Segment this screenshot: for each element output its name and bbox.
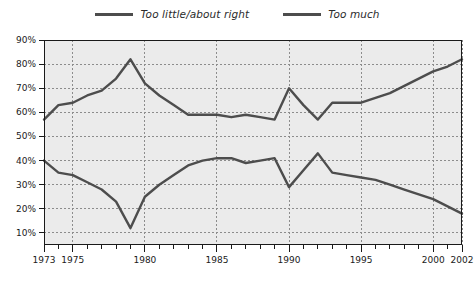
y-axis-label: 80%: [0, 59, 36, 69]
y-axis-label: 20%: [0, 204, 36, 214]
plot-svg: [0, 0, 475, 282]
plot-area: 10%20%30%40%50%60%70%80%90%1973197519801…: [0, 0, 475, 282]
y-axis-label: 50%: [0, 131, 36, 141]
y-axis-label: 30%: [0, 180, 36, 190]
x-axis-label: 1990: [278, 255, 301, 265]
x-axis-label: 1985: [206, 255, 229, 265]
x-axis-label: 1995: [350, 255, 373, 265]
y-axis-label: 40%: [0, 156, 36, 166]
x-axis-label: 1975: [61, 255, 84, 265]
y-axis-label: 70%: [0, 83, 36, 93]
x-axis-ticks: [44, 245, 462, 252]
x-axis-label: 2000: [422, 255, 445, 265]
y-axis-ticks: [39, 40, 44, 233]
y-axis-label: 90%: [0, 35, 36, 45]
survey-trend-line-chart: Too little/about right Too much 10%20%30…: [0, 0, 475, 282]
y-axis-label: 10%: [0, 228, 36, 238]
plot-background: [44, 40, 462, 245]
y-axis-label: 60%: [0, 107, 36, 117]
x-axis-label: 2002: [451, 255, 474, 265]
x-axis-label: 1980: [133, 255, 156, 265]
x-axis-label: 1973: [33, 255, 56, 265]
